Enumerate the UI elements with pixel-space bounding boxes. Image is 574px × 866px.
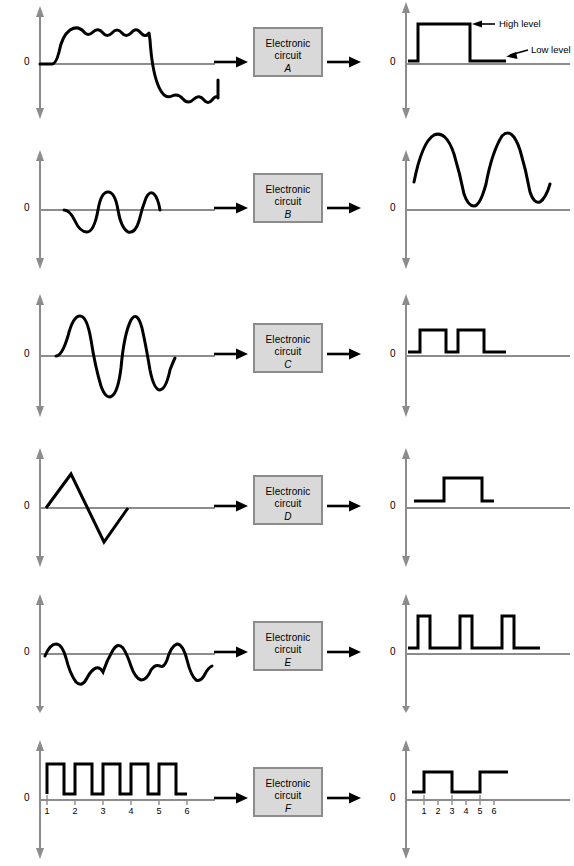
- zero-label-output-F: 0: [390, 792, 396, 803]
- circuit-box-line1-B: Electronic: [266, 184, 311, 195]
- circuit-box-id-F: F: [255, 803, 321, 815]
- flow-arrow-in-D: [214, 498, 250, 518]
- circuit-row-B: 0 Electronic circuit B: [0, 122, 574, 270]
- zero-label-output-A: 0: [390, 56, 396, 67]
- output-waveform-C: 0: [380, 282, 574, 430]
- input-waveform-E: 0: [0, 582, 240, 722]
- circuit-box-line2-D: circuit: [275, 498, 302, 509]
- circuit-box-line2-C: circuit: [275, 346, 302, 357]
- zero-label-output-E: 0: [390, 646, 396, 657]
- circuit-box-id-A: A: [255, 63, 321, 75]
- electronic-circuit-box-B[interactable]: Electronic circuit B: [253, 173, 323, 223]
- flow-arrow-out-D: [327, 498, 363, 518]
- circuit-box-line1-A: Electronic: [266, 38, 311, 49]
- tick-label-input-F-2: 2: [70, 806, 80, 816]
- electronic-circuit-box-A[interactable]: Electronic circuit A: [253, 27, 323, 77]
- tick-label-output-F-5: 5: [475, 806, 485, 816]
- flow-arrow-in-E: [214, 644, 250, 664]
- flow-arrow-out-F: [327, 790, 363, 810]
- zero-label-input-A: 0: [24, 56, 30, 67]
- tick-label-output-F-1: 1: [419, 806, 429, 816]
- flow-arrow-in-A: [214, 54, 250, 74]
- circuit-box-line1-C: Electronic: [266, 334, 311, 345]
- tick-label-input-F-5: 5: [154, 806, 164, 816]
- zero-label-output-C: 0: [390, 348, 396, 359]
- tick-label-input-F-3: 3: [98, 806, 108, 816]
- flow-arrow-in-F: [214, 790, 250, 810]
- zero-label-input-B: 0: [24, 202, 30, 213]
- electronic-circuit-box-F[interactable]: Electronic circuit F: [253, 767, 323, 817]
- circuit-box-id-B: B: [255, 209, 321, 221]
- circuit-box-id-D: D: [255, 511, 321, 523]
- zero-label-output-B: 0: [390, 202, 396, 213]
- circuit-box-line2-F: circuit: [275, 790, 302, 801]
- zero-label-input-C: 0: [24, 348, 30, 359]
- tick-label-output-F-3: 3: [447, 806, 457, 816]
- flow-arrow-out-C: [327, 346, 363, 366]
- circuit-box-line1-F: Electronic: [266, 778, 311, 789]
- circuit-row-D: 0 Electronic circuit D: [0, 432, 574, 580]
- output-waveform-A: 0 High level Low level: [380, 0, 574, 120]
- zero-label-input-D: 0: [24, 500, 30, 511]
- input-waveform-A: 0: [0, 0, 240, 120]
- input-waveform-F: 0 1 2 3 4 5 6: [0, 722, 240, 866]
- electronic-circuit-box-C[interactable]: Electronic circuit C: [253, 323, 323, 373]
- signal-processing-figure: 0 Electronic circuit A: [0, 0, 574, 866]
- zero-label-input-E: 0: [24, 646, 30, 657]
- tick-label-output-F-4: 4: [461, 806, 471, 816]
- input-waveform-C: 0: [0, 282, 240, 430]
- circuit-box-id-E: E: [255, 657, 321, 669]
- circuit-box-line2-B: circuit: [275, 196, 302, 207]
- output-waveform-B: 0: [380, 122, 574, 270]
- tick-label-output-F-6: 6: [489, 806, 499, 816]
- tick-label-input-F-4: 4: [126, 806, 136, 816]
- high-level-annotation: High level: [499, 18, 541, 29]
- output-waveform-E: 0: [380, 582, 574, 722]
- electronic-circuit-box-D[interactable]: Electronic circuit D: [253, 475, 323, 525]
- flow-arrow-in-B: [214, 200, 250, 220]
- zero-label-input-F: 0: [24, 792, 30, 803]
- output-waveform-D: 0: [380, 432, 574, 580]
- output-waveform-F: 0 1 2 3 4 5 6: [380, 722, 574, 866]
- flow-arrow-out-A: [327, 54, 363, 74]
- flow-arrow-in-C: [214, 346, 250, 366]
- circuit-row-C: 0 Electronic circuit C: [0, 282, 574, 430]
- circuit-row-A: 0 Electronic circuit A: [0, 0, 574, 120]
- circuit-row-F: 0 1 2 3 4 5 6 Electronic circuit F: [0, 722, 574, 866]
- zero-label-output-D: 0: [390, 500, 396, 511]
- circuit-box-line1-E: Electronic: [266, 632, 311, 643]
- input-waveform-B: 0: [0, 122, 240, 270]
- tick-label-output-F-2: 2: [433, 806, 443, 816]
- low-level-annotation: Low level: [531, 44, 571, 55]
- tick-label-input-F-1: 1: [42, 806, 52, 816]
- electronic-circuit-box-E[interactable]: Electronic circuit E: [253, 621, 323, 671]
- circuit-box-id-C: C: [255, 359, 321, 371]
- circuit-box-line2-E: circuit: [275, 644, 302, 655]
- circuit-box-line2-A: circuit: [275, 50, 302, 61]
- input-waveform-D: 0: [0, 432, 240, 580]
- flow-arrow-out-B: [327, 200, 363, 220]
- circuit-box-line1-D: Electronic: [266, 486, 311, 497]
- circuit-row-E: 0 Electronic circuit E: [0, 582, 574, 722]
- flow-arrow-out-E: [327, 644, 363, 664]
- tick-label-input-F-6: 6: [182, 806, 192, 816]
